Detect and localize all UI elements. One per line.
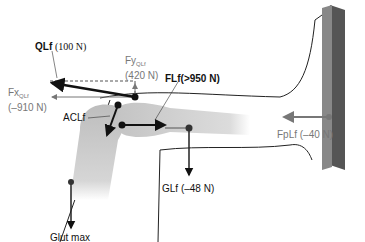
fy-label: FyQLf(420 N) bbox=[125, 55, 158, 81]
fplf-label: FpLf (–40 N) bbox=[277, 129, 333, 140]
aclf-label: ACLf bbox=[63, 112, 85, 123]
foot-plate bbox=[322, 5, 345, 170]
flf-label: FLf(>950 N) bbox=[165, 73, 220, 84]
tibia-bone bbox=[118, 103, 250, 137]
leg-diagram bbox=[0, 0, 365, 242]
glut-label: Glut max bbox=[50, 232, 90, 242]
qlf-label: QLf (100 N) bbox=[35, 41, 86, 52]
qlf-arrow bbox=[52, 83, 135, 97]
fx-label: FxQLf(–910 N) bbox=[8, 87, 47, 113]
glf-label: GLf (–48 N) bbox=[162, 183, 214, 194]
